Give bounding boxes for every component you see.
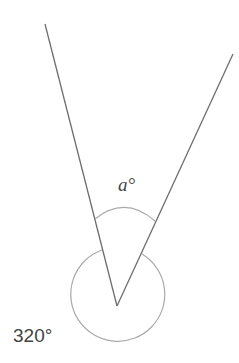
left-ray [45,24,117,306]
angle-diagram: a° 320° [0,0,239,363]
reflex-angle-label: 320° [13,325,52,346]
reflex-angle-arc [71,250,165,341]
inner-angle-label: a° [118,174,136,195]
inner-angle-arc [95,207,155,221]
